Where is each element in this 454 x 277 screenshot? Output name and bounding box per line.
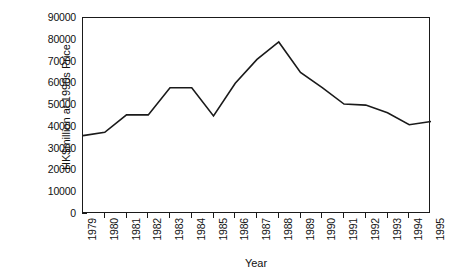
x-axis-tick-label: 1995 [434,218,446,241]
y-axis-tick-label: 20000 [48,163,76,175]
series-line-group [83,18,431,214]
x-axis-tick-label: 1988 [282,218,294,241]
plot-area [82,17,430,213]
x-axis-tick-label: 1982 [151,218,163,241]
x-axis-tick-label: 1981 [130,218,142,241]
x-axis-tick-label: 1987 [260,218,272,241]
x-axis-tick-label: 1979 [86,218,98,241]
x-axis-tick-label: 1985 [217,218,229,241]
series-line [83,42,431,136]
x-axis-tick-label: 1990 [325,218,337,241]
y-axis-tick-label: 40000 [48,120,76,132]
y-axis-tick-label: 70000 [48,55,76,67]
x-axis-label: Year [82,257,430,269]
y-axis-tick-label: 30000 [48,142,76,154]
x-axis-tick-label: 1992 [369,218,381,241]
x-axis-tick-label: 1986 [238,218,250,241]
x-axis-tick-label: 1983 [173,218,185,241]
x-axis-tick-label: 1989 [304,218,316,241]
y-axis-tick-label: 50000 [48,98,76,110]
line-chart: HK$million at 1990s Price 01000020000300… [0,0,454,277]
x-axis-tick-label: 1994 [412,218,424,241]
y-axis-tick-label: 80000 [48,33,76,45]
x-axis-tick-label: 1984 [195,218,207,241]
x-axis-tick-label: 1991 [347,218,359,241]
y-axis-tick-label: 60000 [48,76,76,88]
x-axis-tick-label: 1993 [391,218,403,241]
y-axis-label-wrap: HK$million at 1990s Price [8,0,30,213]
y-axis-tick-label: 90000 [48,11,76,23]
y-axis-tick-label: 10000 [48,185,76,197]
x-axis-tick-label: 1980 [108,218,120,241]
y-axis-tick-label: 0 [70,207,76,219]
